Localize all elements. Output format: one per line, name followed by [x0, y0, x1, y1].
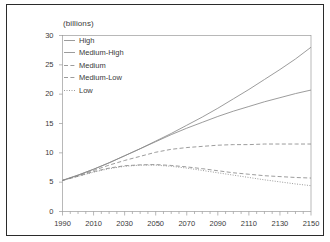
x-axis-tick-label: 2030 [112, 219, 138, 228]
legend-item: Medium [64, 59, 154, 72]
legend-item-label: Low [79, 87, 93, 95]
legend-item-label: Medium [79, 62, 106, 70]
legend-line-swatch-dashed [64, 62, 75, 69]
x-axis-tick-label: 2130 [267, 219, 293, 228]
chart-legend: HighMedium-HighMediumMedium-LowLow [64, 34, 154, 97]
x-axis-tick-label: 2050 [143, 219, 169, 228]
x-axis-tick-label: 2010 [81, 219, 107, 228]
legend-line-swatch-solid [64, 49, 75, 56]
legend-item: Medium-Low [64, 72, 154, 85]
y-axis-tick-label: 5 [36, 177, 54, 186]
series-line-medium-high [63, 90, 312, 180]
y-axis-tick-label: 20 [36, 89, 54, 98]
series-line-medium [63, 144, 312, 180]
legend-item-label: Medium-High [79, 49, 124, 57]
y-axis-tick-label: 30 [36, 31, 54, 40]
legend-line-swatch-solid [64, 37, 75, 44]
legend-line-swatch-dashed [64, 74, 75, 81]
y-axis-tick-label: 0 [36, 207, 54, 216]
legend-item: Medium-High [64, 47, 154, 60]
x-axis-tick-label: 2110 [236, 219, 262, 228]
x-axis-tick-label: 2070 [174, 219, 200, 228]
legend-item-label: Medium-Low [79, 74, 122, 82]
y-axis-unit-label: (billions) [63, 19, 94, 28]
legend-item: Low [64, 84, 154, 97]
x-axis-tick-label: 1990 [50, 219, 76, 228]
legend-item-label: High [79, 37, 94, 45]
x-axis-tick-label: 2090 [205, 219, 231, 228]
y-axis-tick-label: 15 [36, 119, 54, 128]
y-axis-tick-label: 25 [36, 60, 54, 69]
x-axis-tick-label: 2150 [298, 219, 324, 228]
y-axis-tick-label: 10 [36, 148, 54, 157]
screenshot-root: (billions) 051015202530 1990201020302050… [0, 0, 330, 242]
legend-line-swatch-dotted [64, 87, 75, 94]
legend-item: High [64, 34, 154, 47]
